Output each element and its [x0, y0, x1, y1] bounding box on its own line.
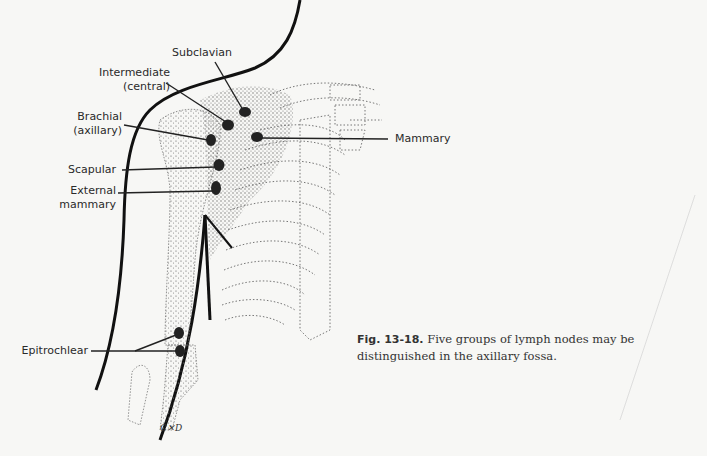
- anatomy-figure: Subclavian Intermediate (central) Brachi…: [0, 0, 707, 456]
- label-scapular: Scapular: [40, 163, 116, 177]
- figure-caption: Fig. 13-18. Five groups of lymph nodes m…: [357, 331, 677, 364]
- label-mammary: Mammary: [395, 132, 450, 146]
- label-text: External: [40, 184, 116, 198]
- label-text: Brachial: [50, 110, 122, 124]
- node-external-mammary: [211, 181, 221, 195]
- label-epitrochlear: Epitrochlear: [10, 344, 88, 358]
- node-epitrochlear-2: [175, 345, 185, 357]
- node-epitrochlear-1: [174, 327, 184, 339]
- label-brachial: Brachial (axillary): [50, 110, 122, 138]
- label-intermediate: Intermediate (central): [96, 66, 170, 94]
- label-text: (central): [96, 80, 170, 94]
- label-text: Subclavian: [172, 46, 232, 59]
- label-text: Scapular: [68, 163, 116, 176]
- label-external-mammary: External mammary: [40, 184, 116, 212]
- label-text: mammary: [40, 198, 116, 212]
- artist-signature: C✕D: [160, 423, 182, 433]
- node-scapular: [214, 159, 225, 171]
- figure-number: Fig. 13-18.: [357, 333, 424, 346]
- label-text: Intermediate: [96, 66, 170, 80]
- node-subclavian: [239, 107, 251, 117]
- label-subclavian: Subclavian: [172, 46, 232, 60]
- node-mammary: [251, 132, 263, 142]
- label-text: (axillary): [50, 124, 122, 138]
- label-text: Mammary: [395, 132, 450, 145]
- label-text: Epitrochlear: [22, 344, 88, 357]
